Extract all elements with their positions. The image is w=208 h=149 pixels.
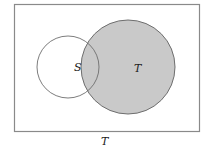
venn-diagram: S T T: [0, 0, 208, 149]
set-s-label: S: [74, 61, 82, 74]
universe-label: T: [101, 135, 110, 148]
set-t-circle: [81, 20, 175, 114]
